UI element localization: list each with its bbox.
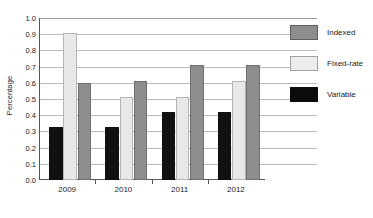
x-axis-tick	[95, 180, 96, 184]
bar-chart: Percentage 0.00.10.20.30.40.50.60.70.80.…	[0, 0, 373, 218]
legend-label: Indexed	[327, 28, 355, 37]
x-axis-tick-label-2009: 2009	[58, 185, 76, 194]
legend-swatch-icon	[290, 25, 318, 40]
y-axis-tick-label: 0.3	[26, 127, 36, 136]
y-axis-tick-label: 1.0	[26, 14, 36, 23]
y-axis-tick-label: 0.7	[26, 62, 36, 71]
x-axis-tick-label-2010: 2010	[114, 185, 132, 194]
legend-item-variable[interactable]: Variable	[290, 81, 373, 107]
bar-fixed-rate-2011	[176, 97, 190, 180]
y-axis-tick-label: 0.1	[26, 159, 36, 168]
x-axis-tick	[208, 180, 209, 184]
legend-swatch-icon	[290, 87, 318, 102]
y-axis-title-text: Percentage	[6, 75, 15, 114]
bar-series-group	[40, 18, 265, 180]
y-axis-tick-label: 0.6	[26, 78, 36, 87]
bar-variable-2009	[49, 127, 63, 180]
bar-variable-2010	[105, 127, 119, 180]
bar-fixed-rate-2010	[120, 97, 134, 180]
y-axis-tick-label: 0.8	[26, 46, 36, 55]
y-axis-tick-label: 0.2	[26, 143, 36, 152]
y-axis-tick-labels: 0.00.10.20.30.40.50.60.70.80.91.0	[16, 18, 38, 180]
x-axis-tick-label-2011: 2011	[171, 185, 188, 194]
legend-label: Fixed-rate	[327, 59, 363, 68]
bar-indexed-2012	[246, 65, 260, 180]
bar-variable-2011	[162, 112, 176, 180]
legend-item-indexed[interactable]: Indexed	[290, 19, 373, 45]
legend-label: Variable	[327, 90, 356, 99]
bar-indexed-2011	[190, 65, 204, 180]
bar-indexed-2009	[78, 83, 92, 180]
x-axis-tick-labels: 2009201020112012	[39, 185, 265, 199]
y-axis-tick-label: 0.9	[26, 30, 36, 39]
legend-swatch-icon	[290, 56, 318, 71]
y-axis-tick-label: 0.0	[26, 176, 36, 185]
bar-variable-2012	[218, 112, 232, 180]
bar-fixed-rate-2009	[63, 33, 77, 180]
bar-fixed-rate-2012	[232, 81, 246, 180]
legend-item-fixed-rate[interactable]: Fixed-rate	[290, 50, 373, 76]
x-axis-tick-label-2012: 2012	[227, 185, 245, 194]
chart-legend: IndexedFixed-rateVariable	[290, 19, 373, 112]
y-axis-tick-label: 0.4	[26, 111, 36, 120]
x-axis-tick	[152, 180, 153, 184]
y-axis-tick-label: 0.5	[26, 95, 36, 104]
bar-indexed-2010	[134, 81, 148, 180]
